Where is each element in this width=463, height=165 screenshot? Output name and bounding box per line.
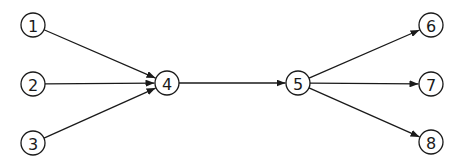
node-label: 8 [426,134,436,153]
node-label: 4 [162,75,172,94]
flow-diagram: 12345678 [0,0,463,165]
node-6: 6 [419,13,443,37]
node-label: 7 [426,76,436,95]
node-label: 2 [28,76,38,95]
edge-1-to-4 [44,30,156,78]
edge-2-to-4 [45,83,155,84]
node-1: 1 [21,13,45,37]
node-label: 3 [28,135,38,154]
edge-3-to-4 [44,88,156,138]
node-7: 7 [419,72,443,96]
node-label: 6 [426,17,436,36]
edges-layer [44,30,420,138]
edge-5-to-6 [309,30,420,78]
node-3: 3 [21,131,45,155]
node-8: 8 [419,130,443,154]
node-label: 1 [28,17,38,36]
edge-5-to-7 [310,83,419,84]
node-5: 5 [286,71,310,95]
edge-5-to-8 [309,88,420,137]
node-label: 5 [293,75,303,94]
node-4: 4 [155,71,179,95]
node-2: 2 [21,72,45,96]
